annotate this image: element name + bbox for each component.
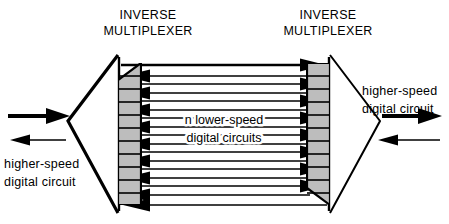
left-multiplexer-label-line1: INVERSE — [120, 8, 177, 22]
right-circuit-label-line2: digital circuit — [362, 102, 434, 116]
right-multiplexer-label-line2: MULTIPLEXER — [283, 24, 372, 38]
left-multiplexer-label-line2: MULTIPLEXER — [103, 24, 192, 38]
left-staircase-bar — [118, 63, 141, 205]
inverse-multiplexer-diagram: INVERSE MULTIPLEXER INVERSE MULTIPLEXER … — [0, 0, 449, 224]
center-label-line1: n lower-speed — [185, 113, 264, 127]
left-circuit-label-line2: digital circuit — [4, 175, 76, 189]
center-label-line2: digital circuits — [186, 131, 261, 145]
figure-canvas: INVERSE MULTIPLEXER INVERSE MULTIPLEXER … — [0, 0, 449, 224]
right-staircase-bar — [307, 63, 330, 205]
right-multiplexer-label-line1: INVERSE — [300, 8, 357, 22]
right-circuit-label-line1: higher-speed — [362, 84, 437, 98]
left-circuit-label-line1: higher-speed — [4, 157, 79, 171]
